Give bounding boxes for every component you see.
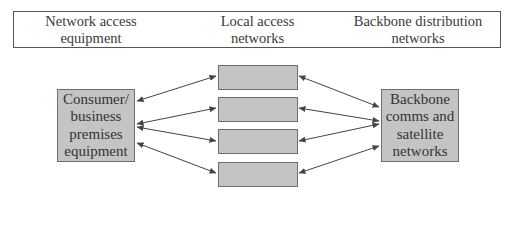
arrow-local-3-to-backbone [299,124,379,141]
arrow-left-to-local-4 [137,143,216,173]
node-local-access-network-3 [218,129,298,154]
arrow-left-to-local-1 [137,76,216,101]
arrow-left-to-local-2 [137,108,216,124]
node-local-access-network-2 [218,97,298,122]
arrow-local-4-to-backbone [299,146,379,173]
arrow-local-1-to-backbone [299,76,379,107]
arrow-local-2-to-backbone [299,108,379,121]
node-local-access-network-4 [218,162,298,187]
node-backbone-comms-satellite-networks: Backbone comms and satellite networks [381,89,459,162]
node-local-access-network-1 [218,65,298,90]
arrow-left-to-local-3 [137,127,216,141]
node-consumer-business-premises-equipment: Consumer/ business premises equipment [57,89,135,162]
